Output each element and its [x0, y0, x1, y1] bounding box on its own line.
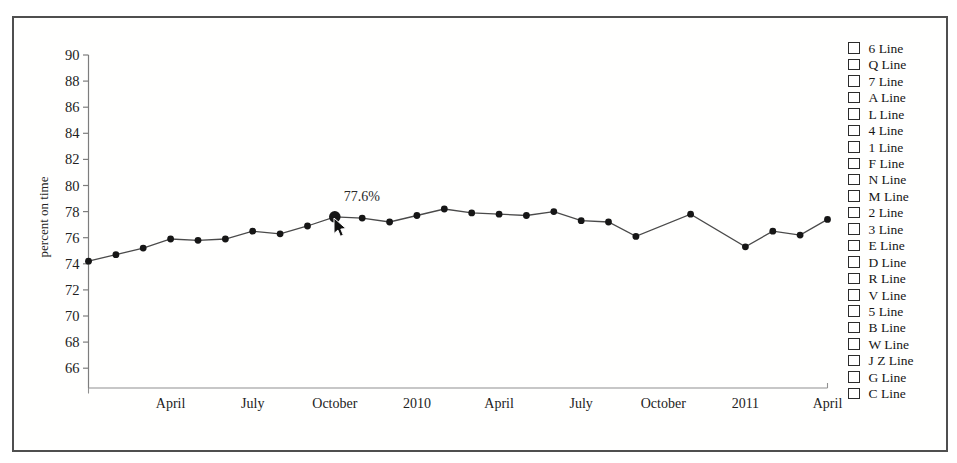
legend-checkbox[interactable] — [848, 125, 860, 137]
legend-checkbox[interactable] — [848, 75, 860, 87]
legend-checkbox[interactable] — [848, 223, 860, 235]
x-tick-label: July — [569, 396, 592, 411]
data-point — [85, 258, 92, 265]
y-tick-label: 90 — [65, 47, 80, 63]
legend-item-label: V Line — [869, 288, 907, 303]
data-point — [359, 215, 366, 222]
legend-checkbox[interactable] — [848, 141, 860, 153]
y-tick-label: 88 — [65, 73, 80, 89]
legend-item: 4 Line — [848, 122, 914, 138]
data-point — [140, 245, 147, 252]
y-tick-label: 86 — [65, 99, 80, 115]
legend-item: 7 Line — [848, 73, 914, 89]
y-tick-label: 82 — [65, 151, 80, 167]
legend-item-label: C Line — [869, 386, 906, 401]
legend-item-label: N Line — [869, 172, 907, 187]
data-point — [304, 223, 311, 230]
y-tick-label: 72 — [65, 282, 80, 298]
legend-checkbox[interactable] — [848, 322, 860, 334]
x-tick-label: April — [484, 396, 514, 411]
legend-item: W Line — [848, 336, 914, 352]
legend-checkbox[interactable] — [848, 92, 860, 104]
y-tick-label: 70 — [65, 308, 80, 324]
legend-checkbox[interactable] — [848, 158, 860, 170]
data-point — [578, 217, 585, 224]
legend: 6 LineQ Line7 LineA LineL Line4 Line1 Li… — [848, 40, 914, 402]
legend-item-label: Q Line — [869, 57, 907, 72]
x-tick-label: October — [641, 396, 686, 411]
legend-item: A Line — [848, 89, 914, 105]
data-point — [687, 211, 694, 218]
legend-item-label: 4 Line — [869, 123, 904, 138]
legend-checkbox[interactable] — [848, 305, 860, 317]
data-point — [550, 208, 557, 215]
x-tick-label: April — [813, 396, 843, 411]
legend-item: N Line — [848, 172, 914, 188]
data-point — [742, 243, 749, 250]
legend-item: 5 Line — [848, 303, 914, 319]
x-tick-label: April — [156, 396, 186, 411]
legend-item: M Line — [848, 188, 914, 204]
legend-item-label: M Line — [869, 189, 909, 204]
legend-item-label: J Z Line — [869, 353, 914, 368]
legend-checkbox[interactable] — [848, 388, 860, 400]
y-tick-label: 76 — [65, 230, 80, 246]
data-point — [605, 219, 612, 226]
legend-item-label: W Line — [869, 337, 910, 352]
legend-item: E Line — [848, 237, 914, 253]
legend-checkbox[interactable] — [848, 371, 860, 383]
x-tick-label: July — [241, 396, 264, 411]
line-chart: 66687072747678808284868890AprilJulyOctob… — [0, 0, 957, 463]
legend-item: 3 Line — [848, 221, 914, 237]
legend-checkbox[interactable] — [848, 174, 860, 186]
legend-checkbox[interactable] — [848, 256, 860, 268]
legend-checkbox[interactable] — [848, 289, 860, 301]
legend-checkbox[interactable] — [848, 338, 860, 350]
legend-item: C Line — [848, 385, 914, 401]
legend-checkbox[interactable] — [848, 207, 860, 219]
legend-item: J Z Line — [848, 352, 914, 368]
legend-item-label: A Line — [869, 90, 906, 105]
legend-checkbox[interactable] — [848, 190, 860, 202]
screen: percent on time 666870727476788082848688… — [0, 0, 957, 463]
legend-item: 6 Line — [848, 40, 914, 56]
data-point — [769, 228, 776, 235]
y-tick-label: 80 — [65, 178, 80, 194]
legend-checkbox[interactable] — [848, 355, 860, 367]
legend-item-label: 2 Line — [869, 205, 904, 220]
legend-checkbox[interactable] — [848, 240, 860, 252]
data-point-annotation: 77.6% — [344, 189, 380, 205]
y-tick-label: 74 — [65, 256, 80, 272]
data-point — [113, 251, 120, 258]
legend-item: 1 Line — [848, 139, 914, 155]
data-point — [195, 237, 202, 244]
legend-item: V Line — [848, 287, 914, 303]
data-point — [386, 219, 393, 226]
series-line — [89, 209, 828, 261]
legend-item-label: R Line — [869, 271, 906, 286]
data-point — [824, 216, 831, 223]
legend-item: Q Line — [848, 56, 914, 72]
legend-item-label: G Line — [869, 370, 907, 385]
data-point — [414, 212, 421, 219]
legend-checkbox[interactable] — [848, 59, 860, 71]
legend-item: 2 Line — [848, 204, 914, 220]
x-tick-label: 2010 — [403, 396, 431, 411]
legend-checkbox[interactable] — [848, 273, 860, 285]
data-point — [277, 230, 284, 237]
legend-checkbox[interactable] — [848, 108, 860, 120]
legend-item-label: F Line — [869, 156, 905, 171]
x-tick-label: October — [312, 396, 357, 411]
legend-item: L Line — [848, 106, 914, 122]
legend-item: B Line — [848, 319, 914, 335]
legend-item-label: 3 Line — [869, 222, 904, 237]
data-point — [797, 232, 804, 239]
legend-item: G Line — [848, 369, 914, 385]
mouse-cursor-icon — [332, 218, 350, 240]
data-point — [441, 206, 448, 213]
legend-item-label: 1 Line — [869, 140, 904, 155]
y-tick-label: 66 — [65, 360, 80, 376]
legend-item-label: 7 Line — [869, 74, 904, 89]
legend-checkbox[interactable] — [848, 42, 860, 54]
data-point — [496, 211, 503, 218]
